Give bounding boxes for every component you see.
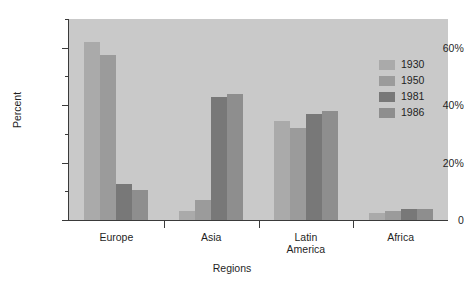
bar bbox=[274, 121, 290, 220]
bar bbox=[100, 55, 116, 220]
y-tick-major bbox=[62, 48, 69, 49]
y-tick-major bbox=[62, 105, 69, 106]
bar bbox=[116, 184, 132, 220]
legend-label: 1986 bbox=[401, 105, 424, 120]
y-tick-major bbox=[62, 220, 69, 221]
legend-label: 1950 bbox=[401, 73, 424, 88]
legend-swatch bbox=[379, 60, 395, 70]
bar bbox=[417, 209, 433, 220]
x-tick bbox=[164, 221, 165, 228]
bar bbox=[195, 200, 211, 220]
legend-label: 1981 bbox=[401, 89, 424, 104]
bar bbox=[385, 211, 401, 220]
bars-layer bbox=[69, 19, 448, 220]
legend-swatch bbox=[379, 92, 395, 102]
bar bbox=[179, 211, 195, 220]
bar bbox=[227, 94, 243, 220]
bar bbox=[290, 128, 306, 220]
bar bbox=[322, 111, 338, 220]
x-tick bbox=[259, 221, 260, 228]
bar bbox=[306, 114, 322, 220]
legend-swatch bbox=[379, 76, 395, 86]
x-group-label: Africa bbox=[353, 231, 448, 243]
y-tick-major bbox=[62, 163, 69, 164]
bar bbox=[211, 97, 227, 220]
x-group-label: Asia bbox=[164, 231, 259, 243]
x-group-label: Europe bbox=[69, 231, 164, 243]
x-tick bbox=[353, 221, 354, 228]
y-axis-title: Percent bbox=[11, 65, 23, 155]
bar bbox=[132, 190, 148, 220]
bar bbox=[84, 42, 100, 220]
bar bbox=[369, 213, 385, 220]
x-group-label: Latin America bbox=[259, 231, 354, 255]
legend-label: 1930 bbox=[401, 57, 424, 72]
legend-swatch bbox=[379, 108, 395, 118]
x-axis-title: Regions bbox=[0, 262, 464, 274]
bar bbox=[401, 209, 417, 220]
bar-chart: 020%40%60% EuropeAsiaLatin AmericaAfrica… bbox=[0, 0, 464, 290]
